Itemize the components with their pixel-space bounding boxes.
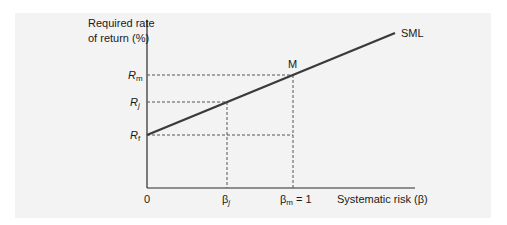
y-tick-rj: Rj — [130, 96, 140, 110]
x-tick-bm: βm = 1 — [280, 193, 312, 207]
x-axis-label: Systematic risk (β) — [337, 193, 428, 205]
y-tick-rf: Rf — [130, 129, 141, 143]
y-axis-label-2: of return (%) — [88, 32, 149, 44]
sml-label: SML — [401, 27, 424, 39]
x-tick-0: 0 — [144, 193, 150, 205]
market-point-label: M — [288, 58, 297, 70]
sml-chart: Required rate of return (%) Rm Rj Rf 0 β… — [0, 0, 507, 225]
x-tick-bj: βj — [222, 193, 230, 207]
sml-line — [147, 33, 395, 135]
y-axis-label-1: Required rate — [88, 17, 155, 29]
y-tick-rm: Rm — [128, 69, 143, 83]
